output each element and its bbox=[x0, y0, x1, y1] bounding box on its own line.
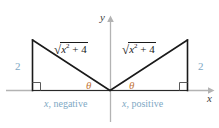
trigonometry-figure: y x √x2 + 4 √x2 + 4 2 2 θ θ x, negative … bbox=[0, 0, 219, 128]
right-angle-theta-label: θ bbox=[129, 80, 134, 91]
figure-canvas bbox=[0, 0, 219, 128]
left-sign-caption-text: , negative bbox=[48, 98, 87, 109]
left-sign-caption: x, negative bbox=[44, 99, 87, 109]
y-axis-arrowhead bbox=[107, 16, 114, 23]
left-radicand-rest: + 4 bbox=[72, 43, 86, 55]
left-angle-theta-label: θ bbox=[86, 80, 91, 91]
right-sign-caption-text: , positive bbox=[126, 98, 163, 109]
right-right-angle-marker bbox=[180, 83, 188, 91]
x-axis-label: x bbox=[207, 93, 212, 104]
left-radicand-exponent: 2 bbox=[66, 42, 70, 50]
right-radicand: x2 + 4 bbox=[128, 42, 156, 55]
y-axis-label: y bbox=[100, 12, 105, 23]
left-vertical-leg-label: 2 bbox=[15, 61, 21, 72]
left-hypotenuse-label: √x2 + 4 bbox=[54, 42, 88, 56]
right-vertical-leg-label: 2 bbox=[198, 61, 204, 72]
right-sign-caption: x, positive bbox=[122, 99, 163, 109]
right-hypotenuse-label: √x2 + 4 bbox=[122, 42, 156, 56]
right-radicand-rest: + 4 bbox=[140, 43, 154, 55]
left-right-angle-marker bbox=[33, 83, 41, 91]
right-radicand-exponent: 2 bbox=[134, 42, 138, 50]
left-radicand: x2 + 4 bbox=[60, 42, 88, 55]
